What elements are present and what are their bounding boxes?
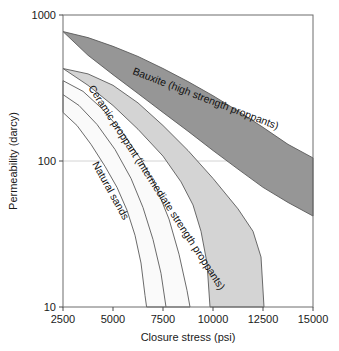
xtick-label-7500: 7500: [151, 313, 175, 325]
xtick-label-15000: 15000: [298, 313, 329, 325]
permeability-vs-closure-stress-chart: 250050007500100001250015000101001000 Bau…: [0, 0, 339, 351]
y-axis-title: Permeability (darcy): [7, 112, 19, 210]
xtick-label-12500: 12500: [248, 313, 279, 325]
ytick-label-1000: 1000: [32, 9, 56, 21]
chart-svg: 250050007500100001250015000101001000 Bau…: [0, 0, 339, 351]
xtick-label-5000: 5000: [101, 313, 125, 325]
x-axis-title: Closure stress (psi): [141, 331, 236, 343]
ytick-label-10: 10: [44, 301, 56, 313]
ytick-label-100: 100: [38, 155, 56, 167]
xtick-label-10000: 10000: [198, 313, 229, 325]
xtick-label-2500: 2500: [51, 313, 75, 325]
